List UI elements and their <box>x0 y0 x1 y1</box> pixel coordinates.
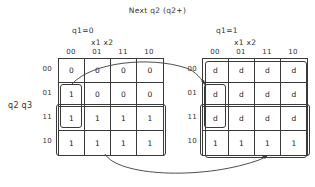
left-kmap-cell-r10-c00[interactable]: 1 <box>59 131 85 155</box>
left-kmap-cell-r11-c11[interactable]: 1 <box>111 107 137 131</box>
left-kmap-cell-r01-c11[interactable]: 0 <box>111 83 137 107</box>
right-kmap-cell-r01-c10[interactable]: d <box>281 83 307 107</box>
right-kmap-cell-r00-c11[interactable]: d <box>255 59 281 83</box>
left-kmap-cell-r00-c01[interactable]: 0 <box>85 59 111 83</box>
left-kmap-grid: 0 0 0 0 1 0 0 0 1 1 1 1 1 1 1 1 <box>58 58 164 156</box>
right-kmap-cell-r00-c01[interactable]: d <box>229 59 255 83</box>
left-kmap-cell-r01-c01[interactable]: 0 <box>85 83 111 107</box>
right-kmap-cell-r11-c11[interactable]: d <box>255 107 281 131</box>
right-kmap-col-header-10: 10 <box>280 48 306 56</box>
left-kmap-col-header-11: 11 <box>110 48 136 56</box>
left-kmap-cell-r10-c11[interactable]: 1 <box>111 131 137 155</box>
right-kmap-condition-label: q1=1 <box>216 26 238 35</box>
right-kmap-row-header-11: 11 <box>183 113 197 121</box>
kmap-figure: Next q2 (q2+) q1=0 x1 x2 00 01 11 10 00 … <box>0 0 315 187</box>
left-kmap-col-header-01: 01 <box>84 48 110 56</box>
right-kmap-cell-r10-c10[interactable]: 1 <box>281 131 307 155</box>
right-kmap-col-header-00: 00 <box>202 48 228 56</box>
right-kmap-cell-r01-c11[interactable]: d <box>255 83 281 107</box>
figure-title: Next q2 (q2+) <box>0 6 315 15</box>
left-kmap-col-header-00: 00 <box>58 48 84 56</box>
left-kmap-condition-label: q1=0 <box>72 26 94 35</box>
left-kmap-col-header-10: 10 <box>136 48 162 56</box>
right-kmap-col-header-01: 01 <box>228 48 254 56</box>
right-kmap-cell-r00-c00[interactable]: d <box>203 59 229 83</box>
left-kmap-cell-r11-c01[interactable]: 1 <box>85 107 111 131</box>
right-kmap-cell-r10-c01[interactable]: 1 <box>229 131 255 155</box>
left-kmap-cell-r01-c00[interactable]: 1 <box>59 83 85 107</box>
left-kmap-cell-r11-c00[interactable]: 1 <box>59 107 85 131</box>
right-kmap-col-header-11: 11 <box>254 48 280 56</box>
row-axis-label: q2 q3 <box>8 101 32 110</box>
left-kmap-cell-r00-c11[interactable]: 0 <box>111 59 137 83</box>
right-kmap-grid: d d d d d d d d d d d d 1 1 1 1 <box>202 58 308 156</box>
left-kmap-cell-r10-c10[interactable]: 1 <box>137 131 163 155</box>
right-kmap-row-header-10: 10 <box>183 137 197 145</box>
right-kmap-cell-r11-c01[interactable]: d <box>229 107 255 131</box>
right-kmap-cell-r00-c10[interactable]: d <box>281 59 307 83</box>
right-kmap-row-header-00: 00 <box>183 65 197 73</box>
left-kmap-row-header-01: 01 <box>38 89 52 97</box>
left-kmap-cell-r00-c10[interactable]: 0 <box>137 59 163 83</box>
right-kmap-cell-r11-c00[interactable]: d <box>203 107 229 131</box>
right-kmap-cell-r10-c11[interactable]: 1 <box>255 131 281 155</box>
left-kmap-cell-r01-c10[interactable]: 0 <box>137 83 163 107</box>
right-kmap-cell-r01-c01[interactable]: d <box>229 83 255 107</box>
right-kmap-cell-r10-c00[interactable]: 1 <box>203 131 229 155</box>
right-kmap-cell-r11-c10[interactable]: d <box>281 107 307 131</box>
left-kmap-cell-r10-c01[interactable]: 1 <box>85 131 111 155</box>
lower-arc-connector <box>105 154 268 173</box>
left-kmap-row-header-11: 11 <box>38 113 52 121</box>
left-kmap-column-axis-label: x1 x2 <box>91 38 113 47</box>
left-kmap-cell-r00-c00[interactable]: 0 <box>59 59 85 83</box>
left-kmap-cell-r11-c10[interactable]: 1 <box>137 107 163 131</box>
left-kmap-row-header-00: 00 <box>38 65 52 73</box>
left-kmap-row-header-10: 10 <box>38 137 52 145</box>
right-kmap-column-axis-label: x1 x2 <box>234 38 256 47</box>
right-kmap-cell-r01-c00[interactable]: d <box>203 83 229 107</box>
right-kmap-row-header-01: 01 <box>183 89 197 97</box>
